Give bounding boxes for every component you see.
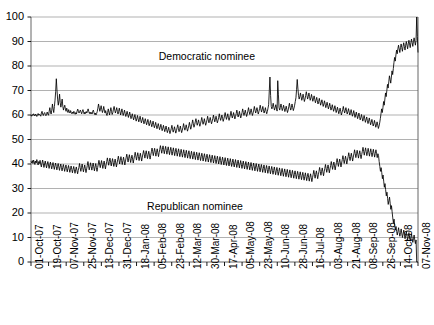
x-axis-tick-label: 12-Mar-08 [193, 223, 203, 269]
y-axis-tick-label: 50 [0, 134, 24, 145]
x-axis-tick-label: 17-Apr-08 [229, 225, 239, 269]
data-line-democratic [31, 17, 418, 134]
x-axis-tick-label: 08-Sep-08 [369, 222, 379, 269]
x-axis-tick-label: 01-Oct-07 [35, 225, 45, 269]
y-axis-tick-label: 20 [0, 207, 24, 218]
x-axis-tick-label: 07-Nov-08 [422, 222, 432, 269]
chart-plot-area [0, 0, 434, 325]
y-axis-tick-label: 10 [0, 232, 24, 243]
prediction-market-chart: 0102030405060708090100 01-Oct-0719-Oct-0… [0, 0, 434, 325]
x-axis-tick-label: 25-Nov-07 [88, 222, 98, 269]
x-axis-tick-label: 21-Aug-08 [352, 222, 362, 269]
x-axis-tick-label: 30-Mar-08 [211, 223, 221, 269]
y-axis-tick-label: 70 [0, 85, 24, 96]
y-axis-tick-label: 40 [0, 158, 24, 169]
annotation-label: Republican nominee [147, 200, 243, 212]
x-axis-tick-label: 16-Jul-08 [316, 227, 326, 269]
annotation-label: Democratic nominee [159, 50, 255, 62]
x-axis-tick-label: 14-Oct-08 [404, 225, 414, 269]
x-axis-tick-label: 28-Jun-08 [299, 224, 309, 269]
x-axis-tick-label: 23-May-08 [264, 221, 274, 269]
x-axis-tick-label: 07-Nov-07 [70, 222, 80, 269]
x-axis-tick-label: 13-Dec-07 [105, 222, 115, 269]
y-axis-tick-label: 60 [0, 109, 24, 120]
x-axis-tick-label: 18-Jan-08 [141, 224, 151, 269]
x-axis-tick-label: 31-Dec-07 [123, 222, 133, 269]
y-axis-tick-label: 30 [0, 183, 24, 194]
x-axis-tick-label: 23-Feb-08 [176, 223, 186, 269]
y-axis-tick-label: 100 [0, 11, 24, 22]
x-axis-tick-label: 05-May-08 [246, 221, 256, 269]
x-axis-tick-label: 19-Oct-07 [53, 225, 63, 269]
x-axis-tick-label: 03-Aug-08 [334, 222, 344, 269]
x-axis-tick-label: 05-Feb-08 [158, 223, 168, 269]
y-tick-marks [28, 17, 32, 262]
x-axis-tick-label: 26-Sep-08 [387, 222, 397, 269]
y-axis-tick-label: 0 [0, 256, 24, 267]
y-axis-tick-label: 80 [0, 60, 24, 71]
x-axis-tick-label: 10-Jun-08 [281, 224, 291, 269]
y-axis-tick-label: 90 [0, 36, 24, 47]
